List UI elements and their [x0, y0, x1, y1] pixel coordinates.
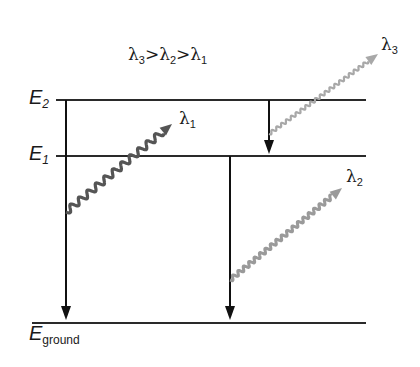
level-label-e2: E2: [29, 86, 49, 111]
energy-level-diagram: λ3>λ2>λ1 E2 E1 Eground λ1 λ3 λ2: [0, 0, 420, 367]
photon-lambda2-wave: [230, 188, 342, 281]
photon-lambda3-wave: [269, 54, 378, 135]
photon-label-lambda2: λ2: [346, 166, 363, 188]
transition-arrow-e2-e1: [264, 100, 274, 154]
wavelength-ordering-label: λ3>λ2>λ1: [128, 44, 207, 66]
photon-lambda1-wave: [66, 124, 172, 213]
transition-arrow-e1-ground: [225, 156, 235, 320]
level-label-ground: Eground: [29, 322, 80, 347]
photon-label-lambda3: λ3: [381, 34, 398, 56]
photon-label-lambda1: λ1: [179, 108, 196, 130]
level-label-e1: E1: [29, 142, 49, 167]
